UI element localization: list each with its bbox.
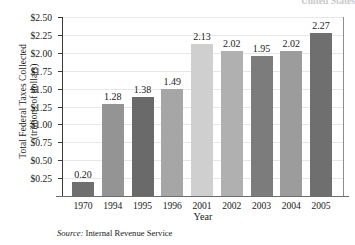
- bar-group: 2.132001: [187, 17, 217, 196]
- bar-value-label: 2.02: [276, 38, 306, 49]
- source-label: Source:: [57, 228, 83, 238]
- bar: [191, 44, 213, 197]
- y-axis-title-line-1: Total Federal Taxes Collected: [18, 44, 28, 159]
- x-axis-tick-label: 2003: [246, 200, 278, 211]
- y-axis-tick: $2.00: [58, 53, 63, 54]
- bar-value-label: 2.02: [217, 38, 247, 49]
- y-axis-tick: $2.25: [58, 35, 63, 36]
- bar: [221, 51, 243, 196]
- y-axis-tick-label: $0.75: [30, 137, 52, 148]
- y-axis-tick: $1.25: [58, 107, 63, 108]
- bar-value-label: 1.95: [247, 43, 277, 54]
- bar-value-label: 1.49: [157, 76, 187, 87]
- bar-value-label: 1.28: [98, 91, 128, 102]
- source-value: Internal Revenue Service: [86, 228, 173, 238]
- bar-value-label: 2.27: [306, 20, 336, 31]
- x-axis-tick-label: 2005: [305, 200, 337, 211]
- x-axis-tick-label: 1995: [127, 200, 159, 211]
- x-axis-line: [56, 196, 349, 197]
- bar-value-label: 1.38: [128, 84, 158, 95]
- y-axis-tick-label: $2.00: [30, 47, 52, 58]
- y-axis-tick: $0.75: [58, 142, 63, 143]
- plot-area: $2.50$2.25$2.00$1.75$1.50$1.25$1.00$0.75…: [62, 17, 344, 196]
- y-axis-tick-label: $1.50: [30, 83, 52, 94]
- bar-chart-figure: United States Total Federal Taxes Collec…: [0, 0, 355, 245]
- x-axis-tick-label: 1996: [156, 200, 188, 211]
- chart-title-fragment: United States: [205, 0, 355, 4]
- x-axis-tick-label: 2004: [275, 200, 307, 211]
- y-axis-tick: $1.00: [58, 124, 63, 125]
- x-axis-tick-label: 1994: [97, 200, 129, 211]
- bar: [251, 56, 273, 196]
- bar-value-label: 2.13: [187, 31, 217, 42]
- y-axis-tick: $0.25: [58, 178, 63, 179]
- x-axis-title: Year: [62, 211, 344, 222]
- x-axis-tick-label: 2001: [186, 200, 218, 211]
- bar-group: 1.281994: [98, 17, 128, 196]
- y-axis-tick: $1.50: [58, 89, 63, 90]
- bar: [72, 182, 94, 196]
- source-note: Source: Internal Revenue Service: [57, 228, 172, 238]
- bar-group: 0.201970: [68, 17, 98, 196]
- bar-group: 1.952003: [247, 17, 277, 196]
- x-axis-tick-label: 2002: [216, 200, 248, 211]
- bar-group: 2.022004: [276, 17, 306, 196]
- bar: [102, 104, 124, 196]
- y-axis-tick-label: $1.00: [30, 119, 52, 130]
- x-axis-tick-label: 1970: [67, 200, 99, 211]
- y-axis-tick: $1.75: [58, 71, 63, 72]
- y-axis-tick-label: $2.25: [30, 29, 52, 40]
- y-axis-tick-label: $1.75: [30, 65, 52, 76]
- bar-value-label: 0.20: [68, 169, 98, 180]
- bar-group: 1.491996: [157, 17, 187, 196]
- y-axis-tick-label: $2.50: [30, 12, 52, 23]
- bar: [310, 33, 332, 196]
- bar: [280, 51, 302, 196]
- y-axis-tick-label: $0.25: [30, 173, 52, 184]
- y-axis-tick: $2.50: [58, 17, 63, 18]
- bar: [161, 89, 183, 196]
- bar-group: 1.381995: [128, 17, 158, 196]
- bar-group: 2.272005: [306, 17, 336, 196]
- bar-group: 2.022002: [217, 17, 247, 196]
- bar: [132, 97, 154, 196]
- plot-right-border: [343, 17, 344, 196]
- y-axis-tick: $0.50: [58, 160, 63, 161]
- y-axis-tick-label: $1.25: [30, 101, 52, 112]
- y-axis-tick-label: $0.50: [30, 155, 52, 166]
